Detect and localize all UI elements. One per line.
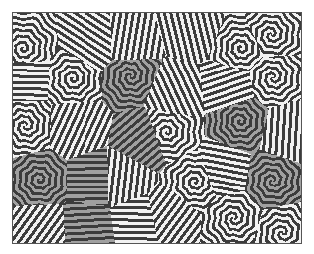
pattern-frame (12, 12, 302, 244)
labyrinth-pattern-image (13, 13, 301, 243)
